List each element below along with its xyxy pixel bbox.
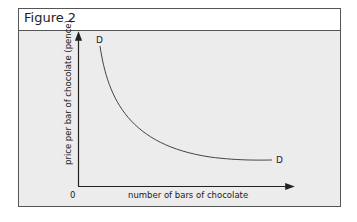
curve-end-label: D: [276, 155, 283, 165]
demand-chart: D D 0 number of bars of chocolate price …: [0, 0, 357, 222]
curve-start-label: D: [96, 35, 103, 45]
origin-label: 0: [70, 190, 75, 200]
demand-curve: [100, 46, 272, 160]
x-axis-label: number of bars of chocolate: [128, 190, 248, 200]
y-axis-label: price per bar of chocolate (pence): [63, 20, 73, 165]
